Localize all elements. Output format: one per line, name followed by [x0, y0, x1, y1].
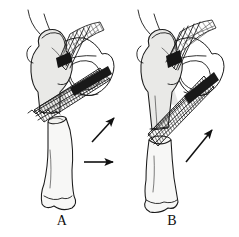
- anatomical-figure: A: [0, 0, 239, 237]
- panel-label-b: B: [167, 213, 177, 228]
- figure-root: A: [0, 0, 239, 237]
- panel-label-a: A: [57, 213, 68, 228]
- figure-background: [0, 0, 239, 237]
